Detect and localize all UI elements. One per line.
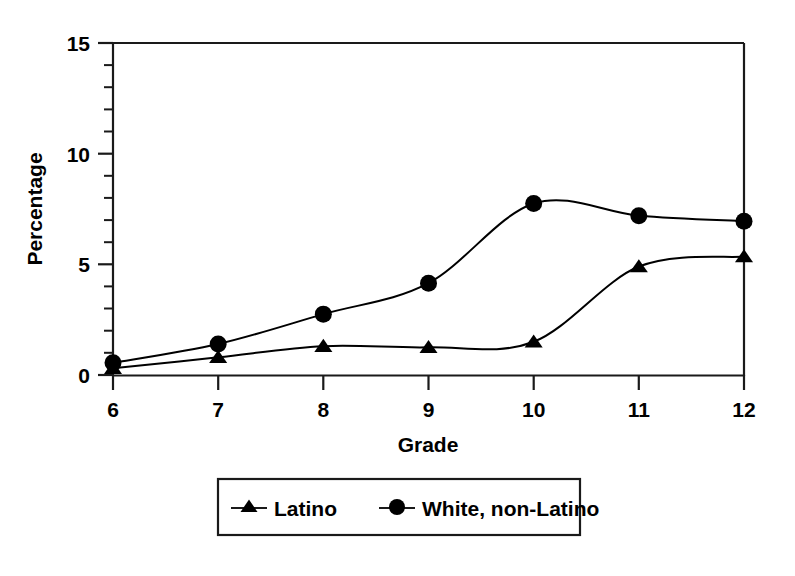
y-tick-label-5: 5 (78, 253, 90, 276)
x-tick-label-9: 9 (423, 398, 435, 421)
legend-label-latino: Latino (274, 497, 337, 520)
circle-marker (389, 499, 405, 515)
y-axis-title: Percentage (23, 152, 46, 265)
circle-marker (210, 336, 227, 353)
legend: Latino White, non-Latino (218, 479, 599, 535)
y-tick-label-15: 15 (67, 32, 91, 55)
line-chart: 15 10 5 0 6 7 8 9 10 11 12 Percentage Gr… (0, 0, 795, 576)
chart-figure: 15 10 5 0 6 7 8 9 10 11 12 Percentage Gr… (0, 0, 795, 576)
x-tick-label-6: 6 (107, 398, 119, 421)
x-tick-label-8: 8 (317, 398, 329, 421)
y-tick-label-10: 10 (67, 143, 90, 166)
x-axis-title: Grade (398, 433, 459, 456)
circle-marker (525, 195, 542, 212)
legend-label-white-non-latino: White, non-Latino (422, 497, 599, 520)
circle-marker (105, 354, 122, 371)
y-tick-label-0: 0 (78, 364, 90, 387)
x-tick-label-7: 7 (212, 398, 224, 421)
circle-marker (736, 213, 753, 230)
x-tick-label-10: 10 (522, 398, 545, 421)
circle-marker (630, 207, 647, 224)
circle-marker (315, 306, 332, 323)
circle-marker (420, 275, 437, 292)
x-tick-label-12: 12 (732, 398, 755, 421)
x-tick-label-11: 11 (628, 398, 651, 421)
